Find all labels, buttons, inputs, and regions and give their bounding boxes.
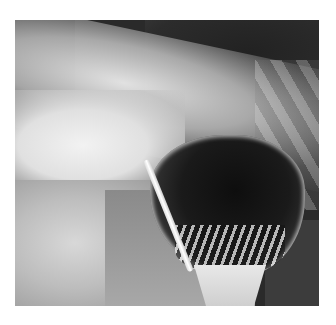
radiograph-image [15,20,319,306]
